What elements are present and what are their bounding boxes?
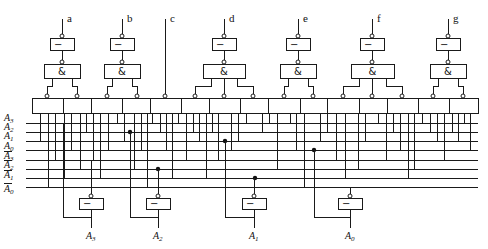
segment-output-gates: a−&b−&cd−&e−&f−&g−& <box>44 12 466 98</box>
input-A1-inverter: −A1 <box>225 141 266 243</box>
and-symbol: & <box>118 66 126 77</box>
inversion-bubble <box>222 94 226 98</box>
segment-label-f: f <box>377 12 381 24</box>
input-label-A2: A2 <box>152 230 163 243</box>
segment-label-b: b <box>127 12 133 24</box>
segment-d-gate: d−& <box>193 12 255 98</box>
or-array-box <box>32 98 478 113</box>
and-input-wire <box>237 78 253 94</box>
and-symbol: & <box>369 66 377 77</box>
junction-dot <box>253 176 257 180</box>
inversion-bubble <box>163 94 167 98</box>
row-labels: A3 A2 A1 A0 A3 A2 A1 A0 <box>3 112 14 196</box>
and-input-wire <box>458 78 463 94</box>
inversion-bubble <box>370 34 374 38</box>
and-symbol: & <box>220 66 228 77</box>
segment-label-a: a <box>67 12 72 24</box>
and-input-wire <box>107 78 112 94</box>
or-array <box>32 98 478 113</box>
and-input-wire <box>132 78 137 94</box>
inversion-bubble <box>60 60 64 64</box>
segment-label-d: d <box>229 12 235 24</box>
segment-f-gate: f−& <box>341 12 404 98</box>
input-label-A1: A1 <box>248 230 259 243</box>
not-symbol: − <box>54 39 62 50</box>
not-symbol: − <box>364 39 372 50</box>
inversion-bubble <box>370 60 374 64</box>
inversion-bubble <box>431 94 435 98</box>
row-label-a0-bar: A0 <box>3 183 14 196</box>
inversion-bubble <box>400 94 404 98</box>
and-input-wire <box>47 78 52 94</box>
inversion-bubble <box>135 94 139 98</box>
segment-e-gate: e−& <box>280 12 316 98</box>
inversion-bubble <box>45 94 49 98</box>
inversion-bubble <box>75 94 79 98</box>
not-symbol: − <box>216 39 224 50</box>
not-symbol: − <box>290 39 298 50</box>
and-input-wire <box>433 78 438 94</box>
inversion-bubble <box>120 34 124 38</box>
segment-g-gate: g−& <box>430 12 466 98</box>
inversion-bubble <box>296 60 300 64</box>
inversion-bubble <box>296 34 300 38</box>
inversion-bubble <box>105 94 109 98</box>
not-symbol: − <box>440 39 448 50</box>
segment-label-g: g <box>453 12 459 24</box>
input-label-A0: A0 <box>344 230 355 243</box>
segment-label-c: c <box>170 12 175 24</box>
input-label-A3: A3 <box>85 230 96 243</box>
and-input-wire <box>284 78 288 94</box>
segment-c-gate: c <box>163 12 175 98</box>
not-symbol: − <box>246 198 254 209</box>
and-symbol: & <box>294 66 302 77</box>
not-symbol: − <box>342 198 350 209</box>
inversion-bubble <box>282 94 286 98</box>
logic-circuit-diagram: a−&b−&cd−&e−&f−&g−& −A3−A2−A1−A0 A3 A2 A… <box>0 0 488 249</box>
inversion-bubble <box>341 94 345 98</box>
inversion-bubble <box>222 34 226 38</box>
and-symbol: & <box>58 66 66 77</box>
not-symbol: − <box>83 198 91 209</box>
and-input-wire <box>343 78 359 94</box>
and-input-wire <box>308 78 313 94</box>
inversion-bubble <box>222 60 226 64</box>
inversion-bubble <box>120 60 124 64</box>
input-A0-inverter: −A0 <box>314 150 362 243</box>
inversion-bubble <box>446 60 450 64</box>
inversion-bubble <box>193 94 197 98</box>
segment-a-gate: a−& <box>44 12 80 98</box>
and-input-wire <box>195 78 211 94</box>
inversion-bubble <box>446 34 450 38</box>
and-symbol: & <box>444 66 452 77</box>
not-symbol: − <box>150 198 158 209</box>
input-matrix <box>26 113 478 187</box>
inversion-bubble <box>251 94 255 98</box>
inversion-bubble <box>60 34 64 38</box>
and-input-wire <box>72 78 77 94</box>
inversion-bubble <box>311 94 315 98</box>
inversion-bubble <box>461 94 465 98</box>
segment-label-e: e <box>303 12 308 24</box>
segment-b-gate: b−& <box>104 12 140 98</box>
not-symbol: − <box>114 39 122 50</box>
and-input-wire <box>386 78 402 94</box>
inversion-bubble <box>370 94 374 98</box>
